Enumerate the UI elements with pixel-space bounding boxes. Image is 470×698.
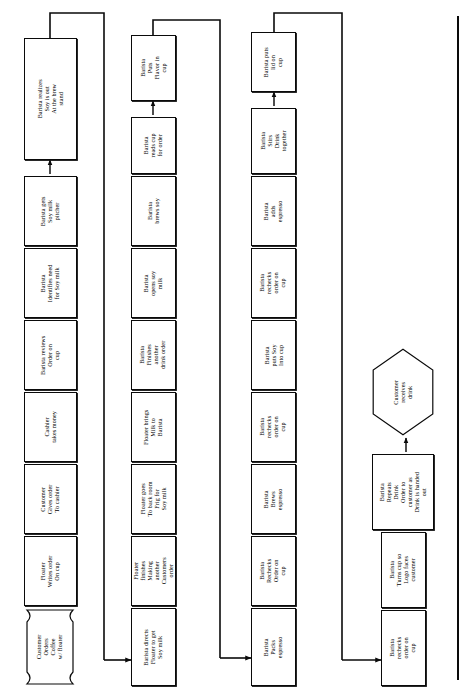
node-label: Barista reviewsOrder oncup [40,335,61,374]
node-label: BaristaPacksespresso [263,636,284,657]
node-label: BaristaFinishesanotherdrink order [140,341,168,369]
page-border-rule [457,16,459,680]
node-label: Baristaaddsespresso [263,200,284,221]
node-label: Cashiertakes money [44,411,58,443]
node-label: Baristaopens soymilk [143,270,164,295]
node-label: CustomerOrdersCoffeew/ floater [36,635,64,660]
node-floater-brings-milk[interactable]: Floater bringsMilk toBarista [131,392,176,462]
node-label: BaristaBrewsespresso [263,488,284,509]
node-label: FloaterWrites orderOn cup [40,555,61,587]
node-barista-reviews-order[interactable]: Barista reviewsOrder oncup [24,320,77,390]
node-label: CustomerGives orderTo cashier [40,484,61,514]
node-label: BaristaRepeatsDrinkOrder tocustomer asDr… [379,472,428,512]
node-barista-gets-pitcher[interactable]: Barista getsSoy milkpitcher [24,176,77,246]
node-barista-realizes-soy-out[interactable]: Barista realizesSoy is outAt the brewsta… [24,38,77,160]
node-cashier-takes-money[interactable]: Cashiertakes money [24,392,77,462]
node-barista-repeats-drink-order[interactable]: BaristaRepeatsDrinkOrder tocustomer asDr… [372,454,434,530]
node-label: Barista getsSoy milkpitcher [40,196,61,226]
node-label: BaristaTurns cup soLogo facescustomer [390,554,418,587]
node-label: Baristaputs SoyInto cup [263,344,284,366]
node-floater-goes-back-room[interactable]: Floater goesTo back roomFrig forSoy milk [131,464,176,534]
node-label: Baristareads cupfor order [143,133,164,157]
node-barista-reads-cup[interactable]: Baristareads cupfor order [131,117,176,174]
node-barista-rechecks-order-1[interactable]: BaristaRechecksOrder oncup [251,536,296,606]
node-label: Barista directsFloater to getSoy milk [143,629,164,666]
node-label: Barista putslid oncup [263,47,284,77]
flowchart-canvas: CustomerOrdersCoffeew/ floater FloaterWr… [0,0,470,698]
node-label: Baristarechecksorder oncup [390,637,418,659]
node-label: BaristaPutsFlavor incup [140,56,168,79]
node-floater-finishes-other-order[interactable]: FloaterfinishesMakinganotherCustomersord… [131,536,176,606]
node-label: FloaterfinishesMakinganotherCustomersord… [133,557,175,584]
node-barista-adds-espresso[interactable]: Baristaaddsespresso [251,176,296,246]
node-customer-receives-drink[interactable]: Customerreceivesdrink [372,348,434,436]
node-barista-turns-cup-logo[interactable]: BaristaTurns cup soLogo facescustomer [381,532,426,608]
node-barista-packs-espresso[interactable]: BaristaPacksespresso [251,608,296,686]
node-barista-puts-soy-into-cup[interactable]: Baristaputs SoyInto cup [251,320,296,390]
node-label: Baristarechecksorder oncup [260,272,288,294]
node-customer-gives-order[interactable]: CustomerGives orderTo cashier [24,464,77,534]
node-label: BaristaStirsDrinktogether [260,131,288,152]
node-customer-orders-coffee[interactable]: CustomerOrdersCoffeew/ floater [22,608,78,686]
node-label: Floater goesTo back roomFrig forSoy milk [140,481,168,516]
node-barista-directs-floater[interactable]: Barista directsFloater to getSoy milk [131,608,176,686]
node-barista-puts-flavor[interactable]: BaristaPutsFlavor incup [131,35,176,101]
node-barista-rechecks-order-3[interactable]: Baristarechecksorder oncup [251,248,296,318]
node-label: Customerreceivesdrink [393,380,414,405]
node-barista-rechecks-order-4[interactable]: Baristarechecksorder oncup [381,610,426,686]
node-label: BaristaRechecksOrder oncup [260,559,288,583]
node-barista-opens-soy-milk[interactable]: Baristaopens soymilk [131,248,176,318]
node-barista-rechecks-order-2[interactable]: Baristarechecksorder oncup [251,392,296,462]
node-label: Barista realizesSoy is outAt the brewsta… [37,80,65,119]
node-label: Floater bringsMilk toBarista [143,409,164,444]
node-barista-brews-soy[interactable]: Baristabrews soy [131,176,176,246]
node-barista-brews-espresso[interactable]: BaristaBrewsespresso [251,464,296,534]
node-label: Baristarechecksorder oncup [260,416,288,438]
node-label: BaristaIdentifies needfor Soy milk [40,264,61,302]
node-label: Baristabrews soy [147,198,161,223]
node-barista-puts-lid-on-cup[interactable]: Barista putslid oncup [251,32,296,92]
node-barista-identifies-need[interactable]: BaristaIdentifies needfor Soy milk [24,248,77,318]
node-barista-stirs-drink[interactable]: BaristaStirsDrinktogether [251,108,296,174]
node-floater-writes-order[interactable]: FloaterWrites orderOn cup [24,536,77,606]
node-barista-finishes-another-drink[interactable]: BaristaFinishesanotherdrink order [131,320,176,390]
